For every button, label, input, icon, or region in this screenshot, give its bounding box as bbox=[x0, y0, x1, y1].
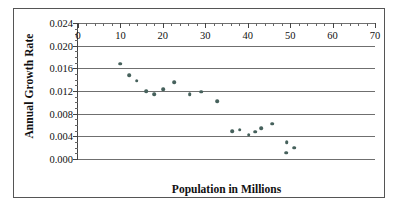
data-point bbox=[259, 127, 263, 131]
data-point bbox=[152, 93, 156, 97]
y-tick-label: 0.016 bbox=[49, 63, 73, 74]
x-minor-tick bbox=[367, 23, 368, 26]
x-minor-tick bbox=[171, 23, 172, 26]
x-minor-tick bbox=[112, 23, 113, 26]
x-tick-label: 50 bbox=[285, 30, 296, 41]
x-minor-tick bbox=[282, 23, 283, 26]
data-point bbox=[135, 79, 139, 83]
y-tick bbox=[73, 159, 78, 160]
y-tick bbox=[73, 46, 78, 47]
x-minor-tick bbox=[103, 23, 104, 26]
y-minor-tick bbox=[75, 85, 78, 86]
y-tick-label: 0.024 bbox=[49, 18, 73, 29]
y-minor-tick bbox=[75, 63, 78, 64]
x-minor-tick bbox=[307, 23, 308, 26]
x-minor-tick bbox=[129, 23, 130, 26]
x-minor-tick bbox=[95, 23, 96, 26]
y-tick-label: 0.020 bbox=[49, 40, 73, 51]
x-minor-tick bbox=[324, 23, 325, 26]
data-point bbox=[173, 80, 177, 84]
x-minor-tick bbox=[188, 23, 189, 26]
y-minor-tick bbox=[75, 80, 78, 81]
y-tick bbox=[73, 136, 78, 137]
x-minor-tick bbox=[239, 23, 240, 26]
gridline bbox=[78, 23, 375, 24]
y-minor-tick bbox=[75, 119, 78, 120]
y-minor-tick bbox=[75, 74, 78, 75]
data-point bbox=[119, 62, 123, 66]
y-minor-tick bbox=[75, 142, 78, 143]
y-minor-tick bbox=[75, 102, 78, 103]
y-tick bbox=[73, 68, 78, 69]
data-point bbox=[253, 130, 257, 134]
x-minor-tick bbox=[341, 23, 342, 26]
y-minor-tick bbox=[75, 97, 78, 98]
x-tick-label: 0 bbox=[75, 30, 80, 41]
x-tick bbox=[163, 23, 164, 28]
x-minor-tick bbox=[299, 23, 300, 26]
x-tick-label: 70 bbox=[370, 30, 381, 41]
gridline bbox=[78, 46, 375, 47]
gridline bbox=[78, 68, 375, 69]
y-tick-label: 0.004 bbox=[49, 131, 73, 142]
x-tick bbox=[333, 23, 334, 28]
y-tick bbox=[73, 114, 78, 115]
x-minor-tick bbox=[180, 23, 181, 26]
data-point bbox=[188, 93, 192, 97]
x-minor-tick bbox=[350, 23, 351, 26]
x-minor-tick bbox=[231, 23, 232, 26]
x-tick-label: 10 bbox=[115, 30, 126, 41]
y-tick-label: 0.000 bbox=[49, 154, 73, 165]
x-axis-title: Population in Millions bbox=[78, 183, 375, 195]
y-minor-tick bbox=[75, 148, 78, 149]
data-point bbox=[285, 151, 289, 155]
gridline bbox=[78, 159, 375, 160]
y-axis-title: Annual Growth Rate bbox=[23, 26, 37, 146]
data-point bbox=[247, 133, 251, 137]
data-point bbox=[285, 140, 289, 144]
x-minor-tick bbox=[154, 23, 155, 26]
data-point bbox=[271, 122, 275, 126]
data-point bbox=[161, 88, 165, 92]
x-minor-tick bbox=[316, 23, 317, 26]
y-minor-tick bbox=[75, 153, 78, 154]
y-minor-tick bbox=[75, 51, 78, 52]
x-minor-tick bbox=[137, 23, 138, 26]
gridline bbox=[78, 91, 375, 92]
x-tick bbox=[120, 23, 121, 28]
y-tick-label: 0.012 bbox=[49, 86, 73, 97]
x-minor-tick bbox=[273, 23, 274, 26]
y-minor-tick bbox=[75, 131, 78, 132]
gridline bbox=[78, 136, 375, 137]
y-minor-tick bbox=[75, 57, 78, 58]
data-point bbox=[238, 128, 242, 132]
data-point bbox=[145, 89, 149, 93]
x-tick bbox=[78, 23, 79, 28]
y-minor-tick bbox=[75, 125, 78, 126]
figure-border: Annual Growth Rate 0.0000.0040.0080.0120… bbox=[13, 8, 385, 198]
gridline bbox=[78, 114, 375, 115]
y-minor-tick bbox=[75, 108, 78, 109]
x-minor-tick bbox=[256, 23, 257, 26]
data-point bbox=[127, 73, 131, 77]
x-tick-label: 30 bbox=[200, 30, 211, 41]
x-tick bbox=[248, 23, 249, 28]
plot-area: 0.0000.0040.0080.0120.0160.0200.024 0102… bbox=[77, 23, 375, 160]
x-minor-tick bbox=[265, 23, 266, 26]
x-tick-label: 40 bbox=[242, 30, 253, 41]
data-point bbox=[199, 90, 203, 94]
x-minor-tick bbox=[197, 23, 198, 26]
x-tick bbox=[290, 23, 291, 28]
x-minor-tick bbox=[146, 23, 147, 26]
x-tick-label: 60 bbox=[327, 30, 338, 41]
y-tick-label: 0.008 bbox=[49, 108, 73, 119]
x-minor-tick bbox=[214, 23, 215, 26]
x-minor-tick bbox=[86, 23, 87, 26]
data-point bbox=[215, 99, 219, 103]
y-tick bbox=[73, 91, 78, 92]
x-tick-label: 20 bbox=[158, 30, 169, 41]
data-point bbox=[231, 129, 235, 133]
x-tick bbox=[205, 23, 206, 28]
x-minor-tick bbox=[222, 23, 223, 26]
x-minor-tick bbox=[358, 23, 359, 26]
